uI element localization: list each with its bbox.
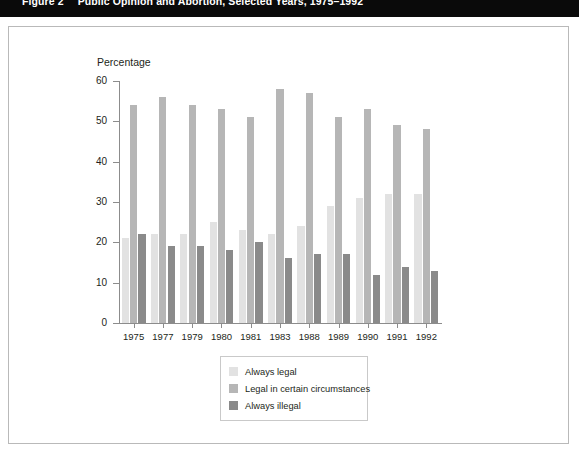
y-axis-tick-label: 10 (67, 277, 107, 288)
bar-legal-in-certain-circumstances (335, 117, 342, 323)
x-axis-tick (339, 323, 340, 328)
legend-label: Legal in certain circumstances (245, 384, 370, 394)
bar-always-illegal (314, 254, 321, 323)
legend-label: Always illegal (245, 401, 301, 411)
y-axis-title: Percentage (97, 56, 151, 68)
bar-always-illegal (226, 250, 233, 323)
x-axis-tick (397, 323, 398, 328)
bar-always-illegal (197, 246, 204, 323)
bar-always-legal (268, 234, 275, 323)
figure-number: Figure 2 (22, 0, 64, 7)
bar-always-illegal (168, 246, 175, 323)
bar-group (268, 81, 292, 323)
y-axis-tick-label: 30 (67, 196, 107, 207)
bar-group (327, 81, 351, 323)
figure-title-text: Figure 2Public Opinion and Abortion, Sel… (22, 0, 363, 7)
figure-panel: Percentage 0102030405060 197519771979198… (8, 26, 569, 444)
bar-always-illegal (138, 234, 145, 323)
x-axis-tick (251, 323, 252, 328)
x-axis-tick (280, 323, 281, 328)
bar-legal-in-certain-circumstances (159, 97, 166, 323)
y-axis-tick-label: 60 (67, 75, 107, 86)
x-axis-tick (221, 323, 222, 328)
bar-always-illegal (402, 267, 409, 323)
bar-always-legal (239, 230, 246, 323)
bar-always-legal (327, 206, 334, 323)
figure-caption: Public Opinion and Abortion, Selected Ye… (78, 0, 364, 7)
bar-always-legal (180, 234, 187, 323)
bar-always-legal (414, 194, 421, 323)
bar-legal-in-certain-circumstances (393, 125, 400, 323)
bar-group (151, 81, 175, 323)
x-axis-tick (134, 323, 135, 328)
bar-legal-in-certain-circumstances (130, 105, 137, 323)
bar-legal-in-certain-circumstances (306, 93, 313, 323)
legend-item: Always illegal (229, 398, 358, 413)
x-axis-tick (309, 323, 310, 328)
bar-group (239, 81, 263, 323)
bar-always-illegal (255, 242, 262, 323)
x-axis-tick (163, 323, 164, 328)
bar-always-legal (356, 198, 363, 323)
bar-always-legal (210, 222, 217, 323)
bar-always-legal (151, 234, 158, 323)
bar-legal-in-certain-circumstances (247, 117, 254, 323)
plot-area (119, 81, 441, 323)
chart-legend: Always legalLegal in certain circumstanc… (220, 356, 368, 421)
figure-title-bar: Figure 2Public Opinion and Abortion, Sel… (0, 0, 579, 17)
legend-label: Always legal (245, 367, 297, 377)
bar-always-legal (385, 194, 392, 323)
chart-container: Percentage 0102030405060 197519771979198… (9, 27, 570, 445)
y-axis-tick-label: 0 (67, 317, 107, 328)
y-axis-tick-label: 20 (67, 236, 107, 247)
bar-group (414, 81, 438, 323)
bar-always-illegal (373, 275, 380, 323)
bar-legal-in-certain-circumstances (189, 105, 196, 323)
y-axis-tick-label: 40 (67, 156, 107, 167)
bar-group (180, 81, 204, 323)
legend-item: Always legal (229, 364, 358, 379)
legend-swatch-icon (229, 384, 238, 393)
bar-always-illegal (285, 258, 292, 323)
bar-always-legal (122, 238, 129, 323)
legend-item: Legal in certain circumstances (229, 381, 358, 396)
bar-legal-in-certain-circumstances (423, 129, 430, 323)
bar-group (356, 81, 380, 323)
bar-always-illegal (343, 254, 350, 323)
y-axis-tick-label: 50 (67, 115, 107, 126)
y-axis-tick (113, 323, 119, 324)
x-axis-tick (426, 323, 427, 328)
x-axis-tick (368, 323, 369, 328)
bar-always-legal (297, 226, 304, 323)
bar-legal-in-certain-circumstances (218, 109, 225, 323)
x-axis-tick-label: 1992 (406, 331, 446, 342)
legend-swatch-icon (229, 367, 238, 376)
bar-group (210, 81, 234, 323)
bar-legal-in-certain-circumstances (276, 89, 283, 323)
bar-group (385, 81, 409, 323)
x-axis-tick (192, 323, 193, 328)
bar-group (122, 81, 146, 323)
legend-swatch-icon (229, 401, 238, 410)
bar-legal-in-certain-circumstances (364, 109, 371, 323)
bar-always-illegal (431, 271, 438, 323)
bar-group (297, 81, 321, 323)
